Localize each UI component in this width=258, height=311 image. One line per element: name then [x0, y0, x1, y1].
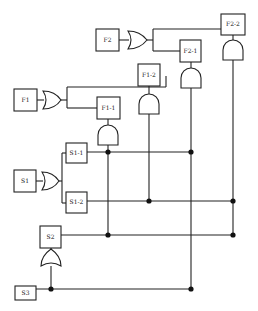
or-gate-f2 — [128, 31, 147, 49]
block-s2-label: S2 — [47, 233, 55, 240]
block-f1-2-label: F1-2 — [142, 71, 156, 78]
block-f1: F1 — [14, 89, 37, 111]
block-f2-2: F2-2 — [221, 14, 245, 35]
and-gate-f2-2 — [223, 35, 243, 60]
and-gate-f1-2 — [139, 86, 159, 114]
junction-dot — [188, 149, 193, 154]
block-f2-1-label: F2-1 — [184, 47, 198, 54]
logic-diagram: F2 F2-2 F2-1 F1 F1-2 F1-1 S1-1 S1 S1-2 S… — [0, 0, 258, 311]
or-gate-s2 — [41, 249, 61, 266]
block-f2-1: F2-1 — [180, 40, 201, 62]
block-f2-label: F2 — [104, 36, 112, 43]
junction-dot — [48, 286, 53, 291]
and-gate-f1-1 — [98, 119, 118, 145]
block-s1-1-label: S1-1 — [70, 149, 84, 156]
diagram-canvas: F2 F2-2 F2-1 F1 F1-2 F1-1 S1-1 S1 S1-2 S… — [0, 0, 258, 311]
or-gate-s1 — [42, 172, 59, 190]
junction-dot — [105, 149, 110, 154]
block-s1-2-label: S1-2 — [70, 198, 84, 205]
block-s1-label: S1 — [21, 177, 29, 184]
block-f2: F2 — [96, 29, 119, 51]
block-s2: S2 — [40, 226, 61, 248]
block-f1-1: F1-1 — [97, 97, 120, 119]
or-gate-f1 — [43, 91, 61, 109]
block-f1-1-label: F1-1 — [102, 104, 116, 111]
block-s1: S1 — [14, 170, 36, 192]
block-s3-label: S3 — [22, 289, 30, 296]
block-f1-2: F1-2 — [138, 64, 160, 86]
junction-dot — [146, 198, 151, 203]
junctions — [48, 149, 235, 291]
junction-dot — [105, 232, 110, 237]
block-s3: S3 — [15, 286, 36, 300]
and-gate-f2-1 — [181, 62, 201, 88]
block-s1-1: S1-1 — [66, 143, 87, 163]
block-f2-2-label: F2-2 — [226, 20, 240, 27]
junction-dot — [230, 232, 235, 237]
junction-dot — [230, 198, 235, 203]
junction-dot — [188, 286, 193, 291]
block-f1-label: F1 — [22, 96, 30, 103]
block-s1-2: S1-2 — [66, 192, 87, 213]
